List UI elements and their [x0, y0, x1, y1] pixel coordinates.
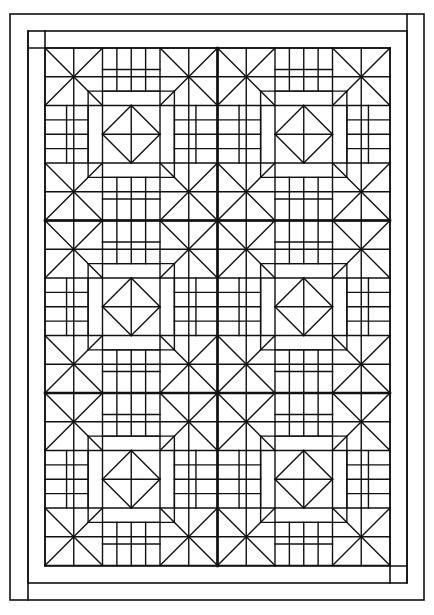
quilt-block — [218, 48, 391, 221]
quilt-block — [45, 393, 218, 566]
quilt-pattern-svg — [0, 0, 434, 615]
quilt-block — [218, 221, 391, 394]
quilt-diagram — [0, 0, 434, 615]
quilt-block — [218, 393, 391, 566]
quilt-block — [45, 221, 218, 394]
quilt-block — [45, 48, 218, 221]
